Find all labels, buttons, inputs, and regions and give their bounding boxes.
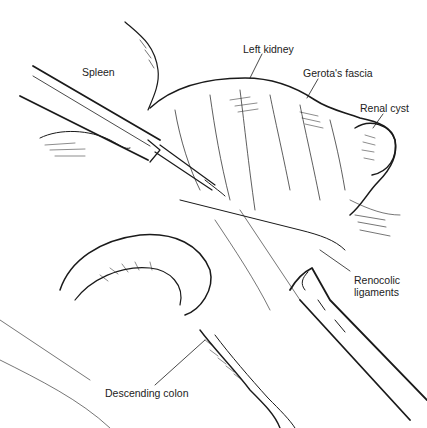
label-left-kidney: Left kidney [243, 43, 294, 55]
label-renal-cyst: Renal cyst [360, 102, 409, 114]
label-renocolic-line2: ligaments [354, 286, 399, 298]
medical-illustration: Spleen Left kidney Gerota's fascia Renal… [0, 0, 427, 428]
label-renocolic-line1: Renocolic [354, 274, 400, 286]
label-spleen: Spleen [82, 66, 115, 78]
illustration-drawing [0, 0, 427, 428]
label-gerotas-fascia: Gerota's fascia [303, 67, 373, 79]
label-descending-colon: Descending colon [105, 387, 188, 399]
